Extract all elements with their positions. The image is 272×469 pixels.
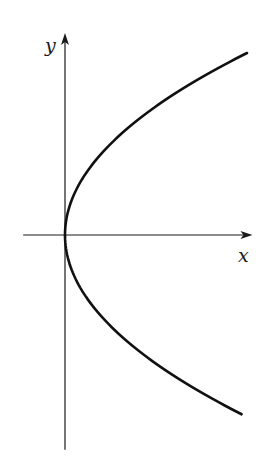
parabola-curve [65, 53, 247, 414]
x-axis-label: x [238, 244, 249, 266]
y-axis-label: y [44, 34, 56, 56]
parabola-diagram: x y [0, 0, 272, 469]
